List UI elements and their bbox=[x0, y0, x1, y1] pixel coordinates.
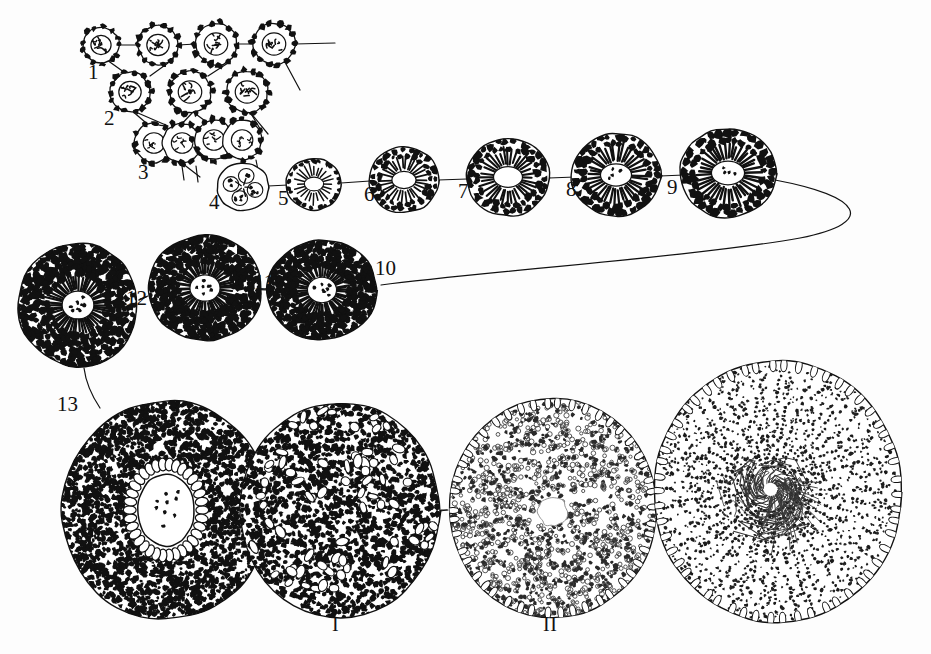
follicle-stage-II bbox=[447, 396, 660, 620]
follicle-stage-7 bbox=[465, 136, 550, 218]
follicle-stage-5 bbox=[285, 158, 343, 211]
stage-label-13: 13 bbox=[57, 394, 78, 415]
follicle-stage-2 bbox=[108, 69, 155, 114]
follicle-stage-1 bbox=[80, 23, 122, 66]
stage-label-roman-i: I bbox=[332, 614, 339, 634]
follicle-stage-4 bbox=[217, 163, 269, 210]
stage-label-4: 4 bbox=[209, 192, 220, 213]
cell-shapes bbox=[12, 18, 905, 626]
stage-label-1: 1 bbox=[88, 62, 99, 83]
follicle-stage-12 bbox=[12, 237, 145, 375]
figure-plate: 1 2 3 4 5 6 7 8 9 10 11 12 13 I II bbox=[0, 0, 931, 654]
stage-label-7: 7 bbox=[458, 181, 469, 202]
stage-label-9: 9 bbox=[667, 177, 678, 198]
stage-label-6: 6 bbox=[364, 184, 375, 205]
stage-label-roman-ii: II bbox=[543, 614, 557, 634]
follicle-stage-10 bbox=[260, 235, 383, 347]
follicle-stage-III bbox=[646, 357, 905, 626]
stage-label-11: 11 bbox=[254, 272, 274, 293]
follicle-stage-1c bbox=[190, 18, 239, 69]
follicle-stage-11 bbox=[141, 229, 268, 348]
follicle-stage-I bbox=[238, 400, 442, 620]
stage-label-5: 5 bbox=[278, 188, 289, 209]
follicle-stage-2c bbox=[222, 66, 273, 117]
follicle-stage-1d bbox=[248, 19, 299, 68]
follicle-stage-6 bbox=[369, 147, 440, 215]
stage-label-3: 3 bbox=[138, 162, 149, 183]
follicle-stage-1b bbox=[135, 21, 183, 67]
illustration-canvas bbox=[0, 0, 931, 654]
follicle-stage-9 bbox=[680, 127, 777, 220]
stage-label-10: 10 bbox=[375, 258, 396, 279]
follicle-stage-8 bbox=[571, 133, 662, 217]
stage-label-2: 2 bbox=[104, 108, 115, 129]
follicle-stage-3b bbox=[189, 114, 264, 165]
stage-label-12: 12 bbox=[126, 288, 147, 309]
stage-label-8: 8 bbox=[566, 179, 577, 200]
